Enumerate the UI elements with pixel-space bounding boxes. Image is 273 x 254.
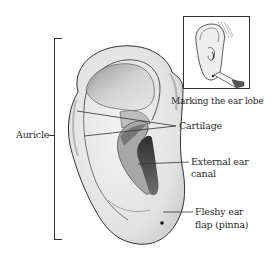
cartilage-label: Cartilage [179,120,222,132]
ear-piercing-dot [160,221,164,225]
pinna-label-line2: flap (pinna) [195,219,248,231]
external-ear-canal-label-line2: canal [191,168,216,180]
external-ear-canal-label-line1: External ear [191,156,249,168]
auricle-label: Auricle [16,129,49,141]
ear-outer [68,46,184,244]
ear-diagram: Auricle Cartilage External ear canal Fle… [0,0,273,254]
inset-caption: Marking the ear lobe [171,95,263,107]
pinna-label-line1: Fleshy ear [195,206,243,218]
auricle-bracket [49,38,62,240]
inset-ear-marking [184,17,250,89]
